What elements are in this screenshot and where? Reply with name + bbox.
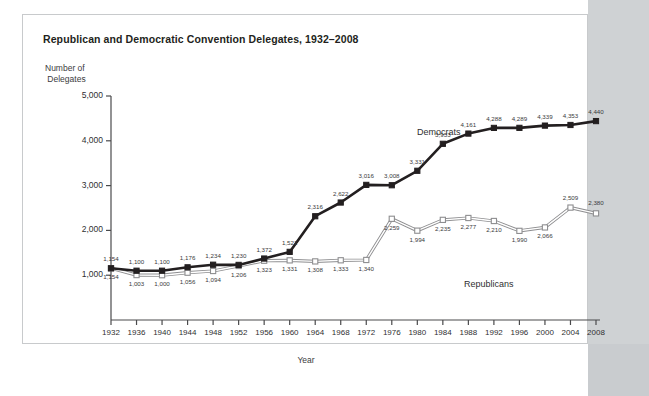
data-point-label: 1,000 [154,280,169,287]
data-point-label: 2,066 [537,232,552,239]
data-point-label: 2,380 [588,199,603,206]
data-point-label: 1,333 [333,265,348,272]
data-point-label: 1,372 [256,246,271,253]
y-axis-tick-label: 5,000 [63,90,103,100]
data-point-label: 2,277 [461,223,476,230]
data-point-label: 1,003 [129,280,144,287]
x-axis-tick-label: 2008 [581,328,611,337]
data-point-label: 1,100 [154,258,169,265]
data-point-label: 1,176 [180,254,195,261]
data-point-label: 2,509 [563,194,578,201]
bottom-right-gray-block [588,344,649,396]
left-margin [0,0,22,396]
page-root: Republican and Democratic Convention Del… [0,0,649,396]
x-axis-title: Year [23,355,589,365]
data-point-label: 1,154 [103,255,118,262]
data-point-label: 2,235 [435,225,450,232]
series-label-democrats: Democrats [417,127,461,137]
data-point-label: 4,440 [588,108,603,115]
data-point-label: 1,094 [205,276,220,283]
data-point-label: 1,100 [129,258,144,265]
data-point-label: 3,008 [384,172,399,179]
data-point-label: 1,056 [180,278,195,285]
bottom-white-area [0,344,649,396]
data-point-label: 1,234 [205,252,220,259]
data-point-label: 4,161 [461,121,476,128]
plot-area: 1,0002,0003,0004,0005,000193219361940194… [23,15,589,345]
y-axis-tick-label: 1,000 [63,269,103,279]
data-point-label: 2,259 [384,224,399,231]
right-gray-panel [588,0,649,344]
chart-card: Republican and Democratic Convention Del… [22,14,588,344]
y-axis-tick-label: 3,000 [63,180,103,190]
data-point-label: 1,323 [256,266,271,273]
series-label-republicans: Republicans [464,279,514,289]
data-point-label: 2,210 [486,226,501,233]
data-point-label: 1,340 [359,265,374,272]
data-point-label: 1,154 [103,273,118,280]
data-point-label: 1,990 [512,236,527,243]
data-point-label: 3,331 [410,158,425,165]
data-point-label: 1,308 [307,266,322,273]
data-point-label: 3,016 [359,172,374,179]
line-chart [23,15,589,345]
data-point-label: 1,331 [282,265,297,272]
data-point-label: 4,288 [486,115,501,122]
data-point-label: 1,994 [410,236,425,243]
data-point-label: 1,230 [231,252,246,259]
data-point-label: 1,521 [282,239,297,246]
data-point-label: 1,206 [231,271,246,278]
data-point-label: 4,289 [512,115,527,122]
data-point-label: 4,353 [563,112,578,119]
y-axis-tick-label: 2,000 [63,224,103,234]
data-point-label: 2,622 [333,190,348,197]
y-axis-tick-label: 4,000 [63,135,103,145]
data-point-label: 2,316 [307,203,322,210]
data-point-label: 4,339 [537,113,552,120]
